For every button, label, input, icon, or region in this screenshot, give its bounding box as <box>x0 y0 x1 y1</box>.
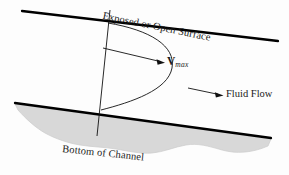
vmax-label: Vmax <box>167 55 188 69</box>
channel-bed-shading <box>15 104 271 153</box>
vmax-subscript: max <box>175 60 188 69</box>
open-channel-flow-diagram: Exposed or Open Surface Bottom of Channe… <box>0 0 289 175</box>
fluid-flow-label: Fluid Flow <box>226 88 272 99</box>
fluid-flow-arrow <box>188 88 224 98</box>
vmax-arrow <box>103 48 165 65</box>
velocity-profile-curve <box>101 23 172 110</box>
